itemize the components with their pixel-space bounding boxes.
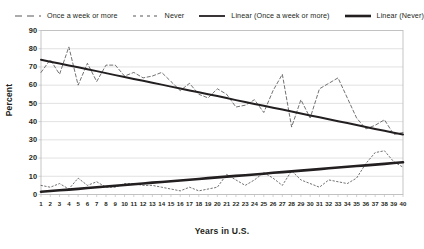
x-tick-label: 40 bbox=[397, 200, 409, 207]
y-tick-label: 80 bbox=[15, 45, 37, 52]
plot-background bbox=[41, 31, 403, 195]
y-tick-label: 90 bbox=[15, 27, 37, 34]
y-tick-label: 0 bbox=[15, 191, 37, 198]
y-tick-label: 30 bbox=[15, 136, 37, 143]
x-axis-title: Years in U.S. bbox=[41, 226, 403, 236]
y-tick-label: 70 bbox=[15, 63, 37, 70]
y-tick-label: 50 bbox=[15, 100, 37, 107]
y-tick-label: 20 bbox=[15, 154, 37, 161]
y-tick-label: 40 bbox=[15, 118, 37, 125]
y-axis-title: Percent bbox=[4, 70, 14, 130]
y-tick-label: 60 bbox=[15, 81, 37, 88]
y-tick-label: 10 bbox=[15, 173, 37, 180]
